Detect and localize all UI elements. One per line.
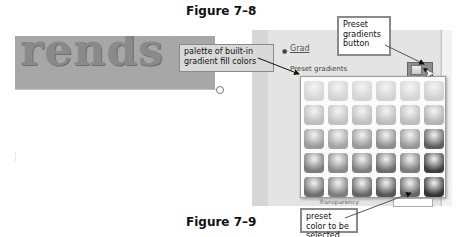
preset-gradients-label: Preset gradients [290,65,347,73]
gradient-fill-label[interactable]: Grad [290,44,309,53]
gradient-swatch[interactable] [352,177,372,197]
gradient-swatch[interactable] [352,81,372,101]
gradient-swatch[interactable] [304,177,324,197]
transparency-spinner[interactable] [393,198,433,207]
gradient-swatch[interactable] [376,81,396,101]
gradient-swatch[interactable] [376,177,396,197]
preset-gradients-palette [300,76,446,198]
sizing-handle[interactable] [216,86,224,94]
gradient-swatch[interactable] [400,105,420,125]
gradient-swatch[interactable] [376,153,396,173]
gradient-swatch[interactable] [328,81,348,101]
mouse-pointer-icon: ➤ [425,67,434,80]
gradient-swatch[interactable] [400,177,420,197]
wordart-text: rends [20,36,164,75]
gradient-swatch[interactable] [352,153,372,173]
gradient-swatch[interactable] [400,81,420,101]
gradient-swatch[interactable] [328,153,348,173]
gradient-swatch[interactable] [424,153,444,173]
gradient-swatch[interactable] [376,105,396,125]
figure-7-8-caption: Figure 7–8 [186,4,256,18]
gradient-swatch[interactable] [328,105,348,125]
gradient-swatch[interactable] [304,105,324,125]
gradient-fill-radio[interactable]: ● [282,47,287,54]
selection-border [15,89,220,90]
gradient-swatch[interactable] [424,81,444,101]
callout-preset-button: Preset gradients button [337,16,391,56]
gradient-swatch[interactable] [328,129,348,149]
gradient-swatch[interactable] [400,153,420,173]
gradient-swatch[interactable] [304,129,324,149]
gradient-swatch[interactable] [328,177,348,197]
gradient-swatch[interactable] [424,105,444,125]
transparency-label: Transparency [319,198,359,205]
figure-7-9-caption: Figure 7–9 [186,215,256,229]
gradient-swatch[interactable] [376,129,396,149]
gradient-swatch[interactable] [424,177,444,197]
gradient-swatch[interactable] [424,129,444,149]
gradient-swatch-icon [411,65,422,75]
gradient-swatch[interactable] [304,153,324,173]
callout-preset-color: preset color to be selected [300,208,358,233]
gradient-swatch[interactable] [400,129,420,149]
gradient-swatch[interactable] [352,105,372,125]
callout-palette: palette of built-in gradient fill colors [179,44,274,72]
gradient-swatch[interactable] [352,129,372,149]
gradient-swatch[interactable] [304,81,324,101]
